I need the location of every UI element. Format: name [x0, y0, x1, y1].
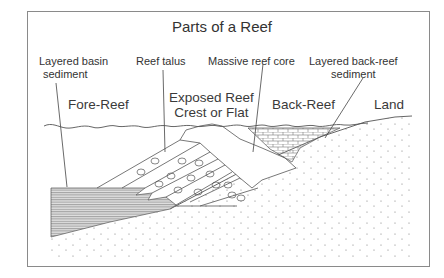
region-back-reef: Back-Reef [272, 97, 335, 112]
region-land: Land [374, 97, 404, 112]
label-backreef-sediment: Layered back-reef sediment [309, 55, 398, 81]
label-basin-sediment: Layered basin sediment [39, 55, 108, 81]
reef-cross-section [0, 0, 444, 278]
label-reef-core: Massive reef core [208, 55, 295, 68]
leader-basin-sediment [56, 83, 67, 187]
region-fore-reef: Fore-Reef [68, 97, 129, 112]
region-reef-crest: Exposed Reef Crest or Flat [169, 90, 254, 120]
label-reef-talus: Reef talus [136, 55, 186, 68]
leader-reef-talus [163, 70, 165, 152]
diagram-title: Parts of a Reef [0, 18, 444, 35]
